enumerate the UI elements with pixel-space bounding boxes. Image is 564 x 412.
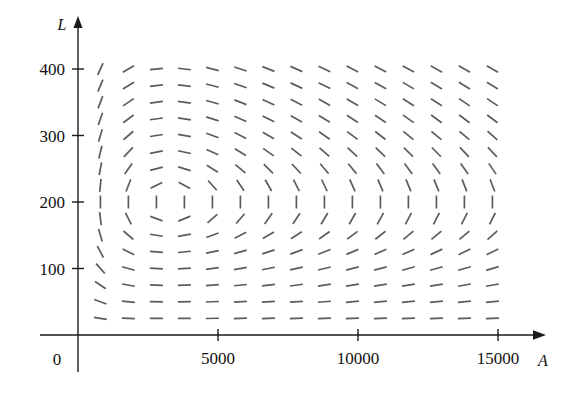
slope-segment <box>265 180 271 191</box>
slope-segment <box>265 213 273 224</box>
slope-segment <box>207 165 218 172</box>
slope-segment <box>97 246 103 257</box>
slope-segment <box>430 301 443 302</box>
slope-segment <box>319 66 331 72</box>
slope-segment <box>178 234 191 236</box>
slope-segment <box>123 82 134 89</box>
slope-segment <box>206 149 218 154</box>
slope-segment <box>431 131 441 139</box>
slope-segment <box>94 299 106 304</box>
slope-segment <box>487 99 498 106</box>
slope-segment <box>291 232 302 239</box>
slope-segment <box>346 267 359 270</box>
slope-segment <box>94 317 107 319</box>
slope-segment <box>150 118 163 120</box>
slope-segment <box>178 251 191 252</box>
y-axis-tick-label: 300 <box>40 127 66 146</box>
slope-segment <box>319 148 329 157</box>
slope-segment <box>319 115 330 122</box>
slope-segment <box>346 301 359 302</box>
slope-segment <box>376 148 385 157</box>
slope-segment <box>402 301 415 302</box>
slope-segment <box>488 231 498 240</box>
slope-segment <box>376 164 384 174</box>
slope-segment <box>122 318 135 319</box>
slope-segment <box>347 115 358 122</box>
slope-segment <box>178 268 191 269</box>
slope-segment <box>263 132 274 139</box>
slope-segment <box>487 249 499 255</box>
slope-segment <box>234 301 247 302</box>
slope-segment <box>126 213 132 225</box>
slope-segment <box>150 151 163 153</box>
slope-segment <box>100 212 102 225</box>
slope-segment <box>403 66 414 72</box>
slope-segment <box>459 231 469 239</box>
slope-segment <box>488 147 497 156</box>
slope-segment <box>262 267 275 270</box>
slope-segment <box>290 267 303 270</box>
x-axis-tick-label: 10000 <box>337 349 380 368</box>
slope-segment <box>262 67 274 72</box>
slope-segment <box>375 82 386 88</box>
slope-segment <box>321 213 328 224</box>
slope-segment <box>150 268 163 269</box>
slope-segment <box>178 101 191 103</box>
slope-segment <box>234 100 246 105</box>
slope-segment <box>490 213 496 225</box>
slope-segment <box>460 147 469 156</box>
slope-segment <box>99 229 103 241</box>
slope-segment <box>434 179 439 191</box>
slope-segment <box>319 83 331 89</box>
slope-segment <box>124 147 133 156</box>
slope-segment <box>263 148 274 156</box>
slope-segment <box>235 165 245 173</box>
slope-segment <box>402 249 414 254</box>
slope-segment <box>486 267 498 271</box>
slope-segment <box>237 180 244 191</box>
y-axis-tick-label: 400 <box>40 60 66 79</box>
slope-segment <box>431 231 441 239</box>
slope-segment <box>291 116 302 122</box>
slope-segment <box>98 96 103 108</box>
slope-segment <box>350 179 355 191</box>
slope-segment <box>235 232 247 238</box>
slope-segment <box>430 267 443 270</box>
slope-segment <box>459 115 469 123</box>
slope-segment <box>378 179 383 191</box>
slope-segment <box>235 149 246 156</box>
slope-segment <box>375 66 387 72</box>
slope-segment <box>234 83 246 87</box>
slope-segment <box>178 216 190 221</box>
slope-segment <box>430 318 443 319</box>
slope-segment <box>100 179 101 192</box>
slope-segment <box>179 182 191 188</box>
slope-segment <box>374 301 387 302</box>
slope-segment <box>319 99 330 105</box>
slope-segment <box>431 82 442 89</box>
slope-segment <box>458 301 471 302</box>
slope-segment <box>150 101 163 103</box>
slope-segment <box>178 118 191 120</box>
slope-segment <box>123 131 133 140</box>
slope-segment <box>349 213 355 224</box>
slope-segment <box>319 132 330 140</box>
slope-segment <box>375 99 386 106</box>
slope-segment <box>459 99 470 106</box>
slope-segment <box>459 131 469 139</box>
slope-segment <box>347 231 357 239</box>
slope-segment <box>262 100 274 105</box>
slope-segment <box>123 99 134 106</box>
slope-segment <box>402 318 415 319</box>
slope-segment <box>206 100 219 104</box>
slope-segment <box>489 163 496 174</box>
slope-segment <box>403 231 413 239</box>
slope-segment <box>262 301 275 302</box>
slope-segment <box>178 134 191 136</box>
slope-segment <box>459 66 470 72</box>
slope-segment <box>375 131 385 139</box>
slope-segment <box>206 301 219 302</box>
y-axis-tick-labels: 100200300400 <box>40 60 66 279</box>
slope-segment <box>150 134 163 136</box>
slope-segment <box>291 83 303 89</box>
